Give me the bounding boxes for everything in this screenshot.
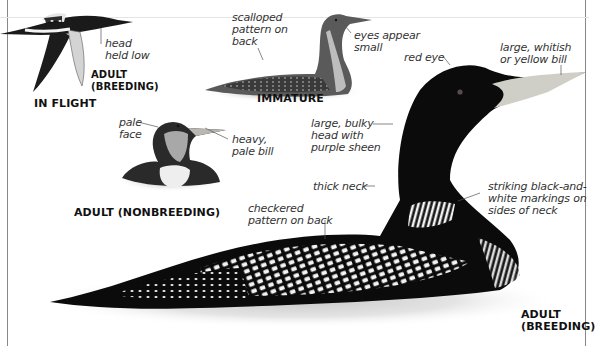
label-pale-face: pale face (119, 117, 142, 141)
caption-immature: IMMATURE (257, 93, 324, 105)
label-large-whitish-bill: large, whitish or yellow bill (500, 42, 571, 66)
label-scalloped-pattern: scalloped pattern on back (232, 12, 288, 48)
immature-loon-figure (205, 14, 372, 102)
label-head-held-low: head held low (105, 38, 149, 62)
label-red-eye: red eye (404, 52, 444, 64)
caption-in-flight: IN FLIGHT (34, 98, 96, 110)
label-thick-neck: thick neck (313, 181, 367, 193)
label-bulky-head: large, bulky head with purple sheen (311, 118, 381, 154)
caption-flight-adult-breeding: ADULT (BREEDING) (91, 69, 159, 93)
caption-adult-breeding: ADULT (BREEDING) (521, 309, 595, 333)
label-heavy-pale-bill: heavy, pale bill (232, 134, 273, 158)
label-checkered-pattern: checkered pattern on back (248, 203, 332, 227)
label-neck-markings: striking black-and- white markings on si… (488, 181, 587, 217)
caption-adult-nonbreeding: ADULT (NONBREEDING) (74, 207, 220, 219)
